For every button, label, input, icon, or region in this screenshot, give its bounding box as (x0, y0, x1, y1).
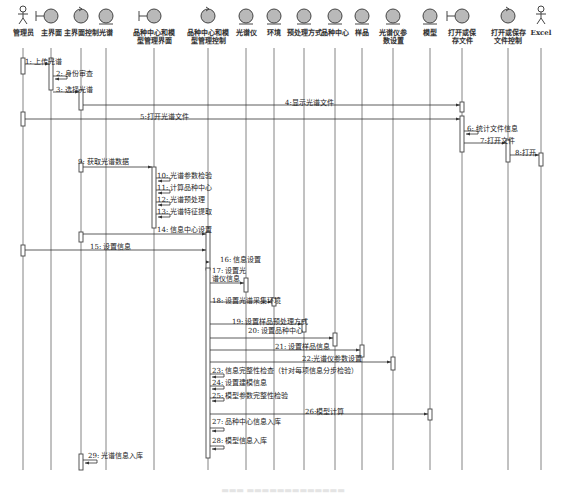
self-message-arrow (210, 446, 224, 449)
actor-icon (20, 6, 26, 12)
message-label: 14: 信息中心设置 (157, 226, 213, 234)
boundary-icon (147, 9, 161, 23)
message-label: 13: 光谱特征提取 (157, 208, 213, 216)
activation-bar (333, 333, 337, 346)
message-label: 21: 设置样品信息 (275, 343, 331, 351)
entity-icon (267, 9, 281, 23)
boundary-bar-icon (447, 11, 455, 21)
message-label: 28: 模型信息入库 (212, 437, 268, 445)
message-label: 9: 获取光谱数据 (78, 158, 129, 166)
self-message-arrow (83, 460, 97, 463)
actor-icon (538, 6, 544, 12)
participant-label: 样品 (355, 29, 369, 37)
activation-bar (428, 409, 432, 420)
message-label: 3: 选择光谱 (56, 86, 93, 94)
participant-label: 光谱 (99, 29, 113, 37)
message-label: 19: 设置样品预处理方式 (232, 318, 309, 326)
message-label: 24: 设置建模信息 (212, 379, 268, 387)
message-label: 5:打开光谱文件 (140, 113, 189, 121)
activation-bar (539, 153, 543, 166)
message-label: 15: 设置信息 (90, 243, 132, 251)
entity-icon (297, 9, 311, 23)
message-label: 10: 光谱参数检验 (157, 172, 213, 180)
activation-bar (460, 116, 464, 152)
sequence-diagram: 管理员主界面主界面控制光谱品种中心和模 型管理界面品种中心和模 型管理控制光谱仪… (0, 0, 566, 498)
message-label: 7:打开文件 (480, 137, 515, 145)
message-label: 22:光谱仪参数设置 (302, 355, 362, 363)
message-label: 26:模型计算 (305, 408, 344, 416)
message-label: 18: 设置光谱采集环境 (212, 297, 282, 305)
participant-label: 光谱仪参 数设置 (379, 29, 407, 45)
message-label: 23: 信息完整性检查（针对每项信息分步检验） (212, 367, 359, 375)
entity-icon (423, 9, 437, 23)
self-message-arrow (210, 428, 224, 431)
entity-icon (99, 9, 113, 23)
figure-caption: ▬▬▬ ▬▬▬▬▬▬▬▬▬▬▬▬▬ (0, 486, 566, 495)
message-label: 12: 光谱预处理 (157, 196, 206, 204)
entity-icon (386, 9, 400, 23)
message-label: 6: 统计文件信息 (467, 125, 518, 133)
message-label: 2: 身份审查 (56, 70, 93, 78)
control-icon (501, 9, 515, 23)
activation-bar (391, 357, 395, 370)
control-icon (201, 9, 215, 23)
message-label: 1: 上传光谱 (25, 58, 62, 66)
entity-icon (328, 9, 342, 23)
participant-label: 管理员 (13, 29, 34, 37)
activation-bar (21, 245, 25, 256)
entity-icon (355, 9, 369, 23)
participant-label: 打开或保 存文件 (448, 29, 476, 45)
participant-label: 品种中心和模 型管理界面 (133, 29, 175, 45)
message-label: 17: 设置光 谱仪信息 (212, 267, 247, 283)
participant-label: 品种中心 (321, 29, 349, 37)
participant-label: 打开或保存 文件控制 (491, 29, 526, 45)
boundary-bar-icon (139, 11, 147, 21)
participant-label: 预处理方式 (287, 29, 322, 37)
participant-label: 模型 (423, 29, 437, 37)
participant-label: 环境 (267, 29, 281, 37)
message-label: 4:显示光谱文件 (285, 99, 334, 107)
participant-label: 品种中心和模 型管理控制 (187, 29, 229, 45)
message-label: 25: 模型参数完整性检验 (212, 392, 289, 400)
message-label: 8:打开 (515, 149, 536, 157)
entity-icon (239, 9, 253, 23)
actor-body-icon (18, 12, 28, 24)
activation-bar (206, 268, 210, 458)
activation-bar (206, 232, 210, 270)
actor-body-icon (536, 12, 546, 24)
message-label: 20: 设置品种中心 (248, 327, 304, 335)
activation-bar (79, 454, 83, 470)
control-icon (74, 9, 88, 23)
message-label: 29: 光谱信息入库 (88, 452, 144, 460)
boundary-bar-icon (36, 11, 44, 21)
message-label: 16: 信息设置 (220, 256, 262, 264)
participant-label: 主界面控制 (64, 29, 99, 37)
activation-bar (460, 102, 464, 112)
message-label: 11: 计算品种中心 (157, 184, 213, 192)
message-label: 27: 品种中心信息入库 (212, 418, 282, 426)
participant-label: 主界面 (41, 29, 62, 37)
boundary-icon (455, 9, 469, 23)
participant-label: 光谱仪 (236, 29, 257, 37)
activation-bar (21, 112, 25, 126)
activation-bar (79, 232, 83, 242)
activation-bar (152, 167, 156, 228)
boundary-icon (44, 9, 58, 23)
participant-label: Excel (531, 29, 552, 37)
